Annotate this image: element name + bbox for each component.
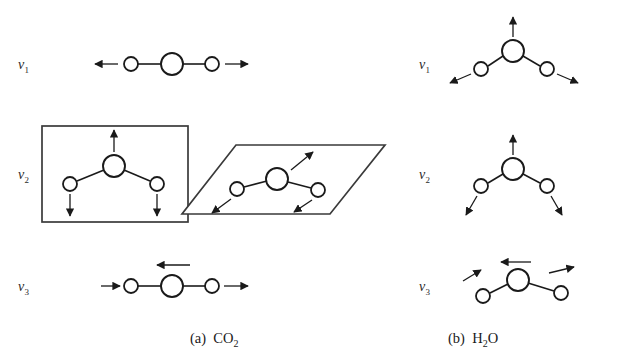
bond: [490, 284, 508, 293]
label-co2-nu3: ν3: [18, 279, 29, 297]
label-h2o-nu3: ν3: [419, 279, 430, 297]
bond: [523, 56, 540, 66]
atom-outer: [150, 177, 164, 191]
panel-co2: [42, 53, 385, 297]
panel-h2o: [450, 17, 578, 303]
displacement-arrow: [549, 267, 574, 273]
nu-subscript: 3: [425, 287, 430, 297]
displacement-arrow: [466, 196, 477, 215]
caption-co2: (a) CO2: [190, 330, 239, 349]
bond: [488, 174, 503, 183]
h2o-mode-nu1-symmetric-stretch: [450, 17, 578, 83]
atom-center: [266, 168, 288, 190]
atom-center: [161, 275, 183, 297]
atom-center: [161, 53, 183, 75]
molecule-diagram-canvas: [0, 0, 620, 363]
displacement-arrow: [450, 74, 471, 83]
nu-subscript: 1: [425, 65, 430, 75]
label-h2o-nu2: ν2: [419, 167, 430, 185]
co2-mode-nu2-bend-perpendicular-plane: [182, 145, 385, 214]
caption-prefix: (a): [190, 330, 206, 346]
atom-outer: [474, 179, 488, 193]
atom-outer: [205, 57, 219, 71]
h2o-mode-nu2-bend: [466, 135, 562, 215]
caption-h2o: (b) H2O: [448, 330, 498, 349]
bond: [528, 283, 554, 291]
nu-subscript: 1: [24, 65, 29, 75]
nu-subscript: 2: [24, 175, 29, 185]
atom-outer: [476, 289, 490, 303]
caption-formula: H: [472, 330, 482, 346]
bond: [488, 56, 503, 66]
bond: [523, 174, 540, 183]
atom-outer: [205, 279, 219, 293]
co2-mode-nu2-bend-in-plane: [42, 126, 188, 222]
atom-outer: [540, 62, 554, 76]
caption-formula-tail: O: [488, 330, 498, 346]
atom-outer: [63, 177, 77, 191]
label-co2-nu2: ν2: [18, 167, 29, 185]
co2-mode-nu1-symmetric-stretch: [95, 53, 248, 75]
atom-outer: [311, 183, 325, 197]
caption-formula: CO: [213, 330, 233, 346]
atom-outer: [124, 57, 138, 71]
atom-center: [502, 40, 524, 62]
atom-outer: [124, 279, 138, 293]
atom-outer: [540, 179, 554, 193]
nu-subscript: 2: [425, 175, 430, 185]
atom-outer: [554, 286, 568, 300]
atom-outer: [474, 62, 488, 76]
vibrational-modes-figure: ν1 ν2 ν3 ν1 ν2 ν3 (a) CO2 (b) H2O: [0, 0, 620, 363]
displacement-arrow: [557, 74, 578, 83]
co2-mode-nu3-asymmetric-stretch: [101, 265, 248, 297]
displacement-arrow: [463, 270, 481, 281]
atom-outer: [230, 182, 244, 196]
h2o-mode-nu3-asymmetric-stretch: [463, 262, 574, 303]
label-h2o-nu1: ν1: [419, 57, 430, 75]
label-co2-nu1: ν1: [18, 57, 29, 75]
atom-center: [507, 269, 529, 291]
caption-prefix: (b): [448, 330, 465, 346]
displacement-arrow: [551, 196, 562, 215]
nu-subscript: 3: [24, 287, 29, 297]
caption-formula-subscript: 2: [234, 338, 239, 349]
atom-center: [502, 158, 524, 180]
atom-center: [103, 155, 125, 177]
